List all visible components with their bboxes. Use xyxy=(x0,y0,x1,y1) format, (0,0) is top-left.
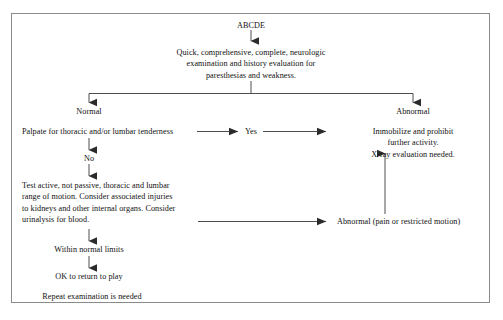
node-test-motion: Test active, not passive, thoracic and l… xyxy=(22,180,175,226)
flowchart-diagram: ABCDE Quick, comprehensive, complete, ne… xyxy=(0,0,503,320)
node-branch-abnormal: Abnormal xyxy=(396,106,430,117)
node-assessment: Quick, comprehensive, complete, neurolog… xyxy=(177,47,326,81)
node-abnormal-pain: Abnormal (pain or restricted motion) xyxy=(337,216,460,227)
node-ok-return-to-play: OK to return to play xyxy=(55,271,122,282)
node-immobilize: Immobilize and prohibit further activity… xyxy=(368,126,458,160)
node-no: No xyxy=(84,153,94,164)
node-within-normal-limits: Within normal limits xyxy=(54,244,123,255)
node-start-abcde: ABCDE xyxy=(237,20,265,31)
node-yes: Yes xyxy=(245,126,257,137)
node-palpate: Palpate for thoracic and/or lumbar tende… xyxy=(22,126,173,137)
node-branch-normal: Normal xyxy=(76,106,101,117)
node-repeat-examination: Repeat examination is needed xyxy=(42,291,141,302)
